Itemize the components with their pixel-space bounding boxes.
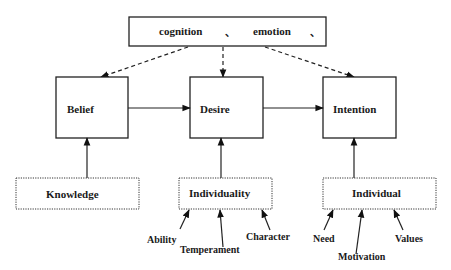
belief-label: Belief (67, 103, 94, 115)
need-label: Need (313, 233, 335, 244)
individuality-node: Individuality (179, 178, 272, 209)
knowledge-node: Knowledge (16, 178, 139, 209)
cognition-label: cognition (159, 25, 202, 37)
desire-node: Desire (190, 77, 263, 138)
edge-temperament-to-individuality (220, 210, 223, 247)
temperament-label: Temperament (180, 244, 240, 255)
edge-ability-to-individuality (180, 210, 189, 229)
character-label: Character (246, 231, 290, 242)
edge-character-to-individuality (262, 210, 270, 230)
edge-motivation-to-individual (356, 210, 362, 254)
edge-top-to-intention (265, 47, 354, 77)
intention-node: Intention (323, 77, 396, 138)
desire-label: Desire (200, 103, 230, 115)
values-label: Values (395, 233, 423, 244)
edge-values-to-individual (394, 210, 403, 230)
motivation-label: Motivation (338, 251, 386, 262)
edge-need-to-individual (324, 210, 333, 230)
belief-node: Belief (56, 77, 128, 138)
individual-label: Individual (352, 187, 401, 199)
individuality-label: Individuality (189, 187, 251, 199)
separator-2: 、 (310, 27, 320, 38)
edge-top-to-belief (101, 47, 188, 77)
intention-label: Intention (333, 103, 376, 115)
separator-1: 、 (225, 27, 235, 38)
emotion-label: emotion (253, 25, 291, 37)
ability-label: Ability (147, 234, 176, 245)
bdi-diagram: cognition 、 emotion 、 Belief Desire Inte… (0, 0, 451, 270)
cognition-emotion-box: cognition 、 emotion 、 (129, 17, 326, 46)
knowledge-label: Knowledge (46, 188, 99, 200)
individual-node: Individual (323, 178, 436, 209)
